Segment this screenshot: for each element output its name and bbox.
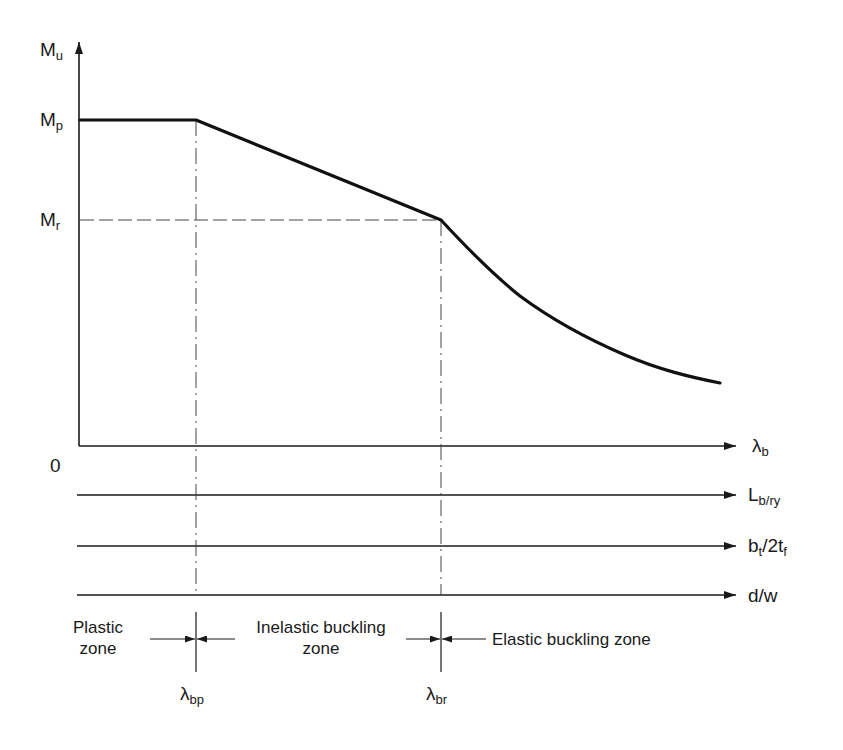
lambda-b-label: λb — [752, 436, 769, 458]
moment-capacity-curve — [80, 120, 720, 383]
inelastic-zone-label: Inelastic buckling zone — [236, 617, 406, 659]
inelastic-zone-line1: Inelastic buckling — [236, 617, 406, 638]
plastic-zone-label: Plastic zone — [50, 617, 146, 659]
bt-2tf-label: bt/2tf — [748, 536, 787, 558]
mr-label: Mr — [40, 210, 60, 232]
inelastic-zone-line2: zone — [236, 638, 406, 659]
plastic-zone-line1: Plastic — [50, 617, 146, 638]
lambda-br-label: λbr — [426, 684, 447, 706]
d-w-label: d/w — [748, 586, 778, 605]
plastic-zone-line2: zone — [50, 638, 146, 659]
y-axis-label: Mu — [40, 40, 63, 62]
lambda-bp-label: λbp — [180, 684, 204, 706]
mp-label: Mp — [40, 110, 63, 132]
origin-label: 0 — [50, 456, 61, 475]
elastic-zone-label: Elastic buckling zone — [492, 629, 651, 650]
lb-ry-label: Lb/ry — [748, 485, 780, 507]
